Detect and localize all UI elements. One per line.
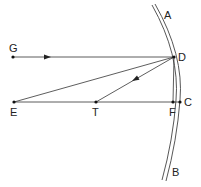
label-t: T — [92, 106, 99, 118]
ray-diagram: G D E T F C A B — [0, 0, 201, 187]
point-t-dot — [94, 100, 97, 103]
label-c: C — [184, 96, 192, 108]
label-f: F — [169, 106, 176, 118]
label-d: D — [178, 51, 186, 63]
arrowhead-g-to-d-icon — [44, 55, 51, 60]
point-d-dot — [172, 55, 175, 58]
line-d-to-f — [173, 57, 174, 102]
point-e-dot — [12, 100, 15, 103]
label-a: A — [164, 9, 172, 21]
arrowhead-d-to-t-icon — [132, 76, 140, 82]
diagram-svg: G D E T F C A B — [0, 0, 201, 187]
label-b: B — [172, 166, 179, 178]
label-e: E — [10, 106, 17, 118]
line-e-to-d — [14, 57, 174, 102]
label-g: G — [9, 42, 18, 54]
mirror-arc — [152, 4, 180, 181]
point-f-dot — [171, 100, 174, 103]
point-c-dot — [178, 100, 181, 103]
point-g-dot — [11, 55, 14, 58]
